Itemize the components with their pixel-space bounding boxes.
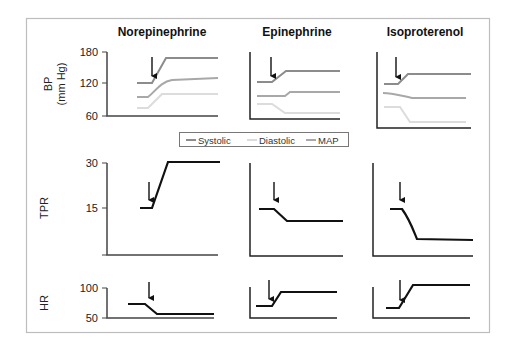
tick-120: 120	[80, 77, 98, 89]
hr-norepinephrine-panel: 100 50	[80, 282, 214, 324]
tpr-norepinephrine-panel: 30 15	[86, 157, 220, 255]
hr-epinephrine-panel	[250, 280, 337, 318]
column-title-epinephrine: Epinephrine	[262, 25, 332, 39]
legend-map-label: MAP	[318, 135, 339, 146]
hr-isoproterenol-panel	[373, 280, 470, 318]
column-title-norepinephrine: Norepinephrine	[118, 25, 207, 39]
bp-isoproterenol-panel	[377, 52, 471, 128]
legend-systolic-label: Systolic	[198, 135, 231, 146]
tick-15: 15	[86, 202, 98, 214]
bp-label: BP	[42, 77, 54, 92]
tpr-row-label: TPR	[38, 197, 50, 219]
bp-norepinephrine-panel: 180 120 60	[80, 46, 218, 122]
tpr-label: TPR	[38, 197, 50, 219]
hr-label: HR	[38, 295, 50, 311]
legend: Systolic Diastolic MAP	[180, 133, 349, 147]
tick-60: 60	[86, 110, 98, 122]
tick-30: 30	[86, 157, 98, 169]
tpr-isoproterenol-panel	[373, 163, 473, 256]
bp-epinephrine-panel	[250, 52, 340, 119]
catecholamine-chart: Norepinephrine Epinephrine Isoproterenol…	[0, 0, 512, 345]
legend-diastolic-label: Diastolic	[259, 135, 295, 146]
bp-row-label: BP (mm Hg)	[42, 63, 67, 106]
tick-100: 100	[80, 282, 98, 294]
tpr-epinephrine-panel	[250, 163, 343, 256]
hr-row-label: HR	[38, 295, 50, 311]
bp-unit-label: (mm Hg)	[55, 63, 67, 106]
column-title-isoproterenol: Isoproterenol	[387, 25, 464, 39]
tick-180: 180	[80, 46, 98, 58]
tick-50: 50	[86, 312, 98, 324]
